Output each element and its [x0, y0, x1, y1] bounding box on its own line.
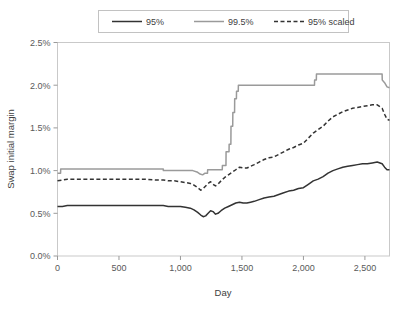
chart-legend: 95%99.5%95% scaled	[99, 11, 355, 33]
x-tick-label: 500	[111, 263, 126, 273]
chart-background	[0, 0, 414, 310]
y-axis-title: Swap initial margin	[5, 109, 16, 189]
y-tick-label: 2.5%	[30, 38, 51, 48]
x-tick-label: 1,500	[231, 263, 254, 273]
x-axis-title: Day	[215, 287, 232, 298]
y-tick-label: 1.0%	[30, 166, 51, 176]
x-tick-label: 1,000	[169, 263, 192, 273]
x-tick-label: 2,000	[292, 263, 315, 273]
y-tick-label: 0.0%	[30, 251, 51, 261]
legend-label-2: 95% scaled	[308, 17, 355, 27]
legend-label-0: 95%	[146, 17, 164, 27]
chart-figure: 95%99.5%95% scaled 0.0%0.5%1.0%1.5%2.0%2…	[0, 0, 414, 310]
y-tick-label: 1.5%	[30, 123, 51, 133]
x-tick-label: 2,500	[354, 263, 377, 273]
y-tick-label: 2.0%	[30, 81, 51, 91]
legend-label-1: 99.5%	[228, 17, 254, 27]
x-tick-label: 0	[55, 263, 60, 273]
line-chart: 95%99.5%95% scaled 0.0%0.5%1.0%1.5%2.0%2…	[0, 0, 414, 310]
y-tick-label: 0.5%	[30, 209, 51, 219]
